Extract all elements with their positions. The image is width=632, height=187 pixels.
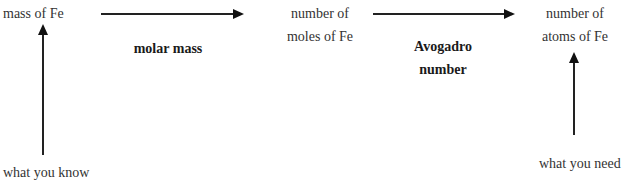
edge-label-avogadro-line1: Avogadro [414,35,472,58]
node-atoms-of-fe-line2: atoms of Fe [542,25,608,48]
node-mass-of-fe: mass of Fe [3,2,64,25]
edge-label-molar-mass: molar mass [134,37,203,60]
arrow-known-to-mass [38,24,48,155]
arrow-mass-to-moles-head [233,9,244,19]
arrow-moles-to-atoms [373,9,515,19]
node-moles-of-fe-line1: number of [287,2,353,25]
arrow-known-to-mass-head [38,24,48,35]
annotation-what-you-know: what you know [3,161,89,184]
node-moles-of-fe: number of moles of Fe [287,2,353,48]
node-atoms-of-fe: number of atoms of Fe [542,2,608,48]
arrow-needed-to-atoms-head [569,52,579,63]
arrow-needed-to-atoms [569,52,579,135]
annotation-what-you-need: what you need [539,152,621,175]
node-moles-of-fe-line2: moles of Fe [287,25,353,48]
arrow-moles-to-atoms-head [504,9,515,19]
edge-label-avogadro-line2: number [414,58,472,81]
edge-label-avogadro-number: Avogadro number [414,35,472,81]
node-atoms-of-fe-line1: number of [542,2,608,25]
arrow-mass-to-moles [101,9,244,19]
